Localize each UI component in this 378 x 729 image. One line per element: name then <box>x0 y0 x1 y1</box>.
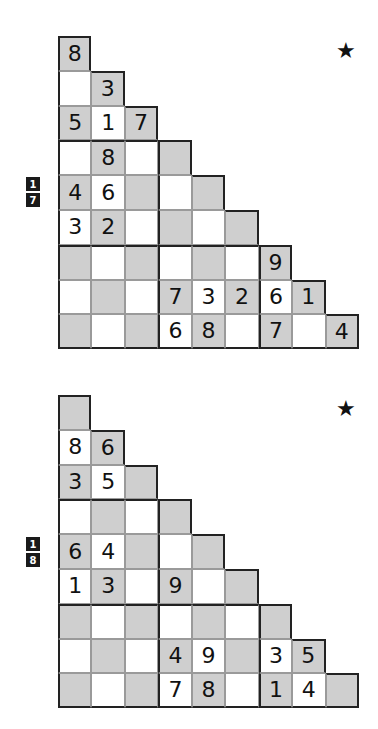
grid-cell[interactable]: 1 <box>292 280 325 315</box>
grid-cell[interactable] <box>225 245 258 280</box>
grid-cell[interactable] <box>225 604 258 639</box>
puzzle-label: 1 7 <box>26 177 40 209</box>
grid-cell[interactable]: 7 <box>125 106 158 141</box>
grid-cell[interactable] <box>91 499 124 534</box>
grid-cell[interactable] <box>58 639 91 674</box>
grid-cell[interactable] <box>125 465 158 500</box>
grid-cell[interactable] <box>158 175 191 210</box>
grid-cell[interactable] <box>326 673 359 708</box>
grid-cell[interactable] <box>225 673 258 708</box>
grid-cell[interactable]: 3 <box>58 465 91 500</box>
grid-cell[interactable] <box>91 280 124 315</box>
grid-cell[interactable]: 4 <box>58 175 91 210</box>
grid-cell[interactable]: 7 <box>259 314 292 349</box>
grid-cell[interactable] <box>259 604 292 639</box>
grid-cell[interactable]: 6 <box>58 534 91 569</box>
grid-cell[interactable] <box>125 639 158 674</box>
grid-cell[interactable]: 5 <box>292 639 325 674</box>
puzzle-label: 1 8 <box>26 537 40 569</box>
grid-cell[interactable] <box>158 245 191 280</box>
grid-cell[interactable] <box>225 569 258 604</box>
grid-cell[interactable] <box>91 314 124 349</box>
grid-cell[interactable] <box>125 604 158 639</box>
grid-cell[interactable]: 3 <box>259 639 292 674</box>
grid-cell[interactable] <box>58 140 91 175</box>
grid-cell[interactable] <box>158 604 191 639</box>
triangle-grid: 83517846329732616874 <box>58 36 359 349</box>
puzzle-1: 1 7 ★ 83517846329732616874 <box>0 0 378 360</box>
grid-cell[interactable] <box>91 639 124 674</box>
grid-cell[interactable]: 4 <box>292 673 325 708</box>
grid-cell[interactable]: 1 <box>259 673 292 708</box>
grid-cell[interactable] <box>158 210 191 245</box>
label-bottom: 8 <box>26 553 40 567</box>
grid-cell[interactable]: 6 <box>158 314 191 349</box>
grid-cell[interactable] <box>225 639 258 674</box>
grid-cell[interactable] <box>91 245 124 280</box>
grid-cell[interactable]: 8 <box>192 673 225 708</box>
grid-cell[interactable] <box>58 395 91 430</box>
grid-cell[interactable]: 3 <box>192 280 225 315</box>
grid-cell[interactable]: 8 <box>58 36 91 71</box>
grid-cell[interactable]: 8 <box>91 140 124 175</box>
grid-cell[interactable] <box>125 534 158 569</box>
grid-cell[interactable] <box>58 71 91 106</box>
grid-cell[interactable] <box>58 499 91 534</box>
grid-cell[interactable]: 2 <box>225 280 258 315</box>
grid-cell[interactable] <box>192 604 225 639</box>
grid-cell[interactable] <box>125 140 158 175</box>
grid-cell[interactable] <box>192 245 225 280</box>
grid-cell[interactable] <box>91 673 124 708</box>
grid-cell[interactable]: 5 <box>58 106 91 141</box>
grid-cell[interactable]: 2 <box>91 210 124 245</box>
grid-cell[interactable]: 5 <box>91 465 124 500</box>
grid-cell[interactable] <box>125 175 158 210</box>
grid-cell[interactable] <box>58 673 91 708</box>
grid-cell[interactable]: 6 <box>259 280 292 315</box>
grid-cell[interactable] <box>225 210 258 245</box>
grid-cell[interactable] <box>292 314 325 349</box>
grid-cell[interactable]: 9 <box>192 639 225 674</box>
grid-cell[interactable] <box>58 280 91 315</box>
grid-cell[interactable] <box>58 245 91 280</box>
grid-cell[interactable] <box>192 534 225 569</box>
grid-cell[interactable] <box>225 314 258 349</box>
grid-cell[interactable] <box>125 499 158 534</box>
grid-cell[interactable]: 4 <box>158 639 191 674</box>
grid-cell[interactable]: 7 <box>158 280 191 315</box>
grid-cell[interactable]: 4 <box>91 534 124 569</box>
grid-cell[interactable] <box>158 140 191 175</box>
grid-cell[interactable]: 3 <box>91 569 124 604</box>
grid-cell[interactable]: 4 <box>326 314 359 349</box>
grid-cell[interactable] <box>158 534 191 569</box>
grid-cell[interactable] <box>125 569 158 604</box>
grid-cell[interactable]: 9 <box>158 569 191 604</box>
grid-cell[interactable]: 7 <box>158 673 191 708</box>
grid-cell[interactable] <box>91 604 124 639</box>
grid-cell[interactable] <box>125 245 158 280</box>
grid-cell[interactable]: 3 <box>58 210 91 245</box>
grid-cell[interactable]: 3 <box>91 71 124 106</box>
grid-cell[interactable] <box>125 280 158 315</box>
grid-cell[interactable]: 1 <box>91 106 124 141</box>
grid-cell[interactable]: 6 <box>91 430 124 465</box>
grid-cell[interactable] <box>125 314 158 349</box>
grid-cell[interactable] <box>192 210 225 245</box>
label-top: 1 <box>26 537 40 551</box>
grid-cell[interactable] <box>58 314 91 349</box>
grid-cell[interactable] <box>125 210 158 245</box>
grid-cell[interactable]: 8 <box>192 314 225 349</box>
grid-cell[interactable]: 9 <box>259 245 292 280</box>
puzzle-2: 1 8 ★ 86356413949357814 <box>0 359 378 719</box>
label-bottom: 7 <box>26 193 40 207</box>
grid-cell[interactable] <box>192 175 225 210</box>
grid-cell[interactable] <box>158 499 191 534</box>
grid-cell[interactable] <box>58 604 91 639</box>
grid-cell[interactable] <box>125 673 158 708</box>
grid-cell[interactable]: 6 <box>91 175 124 210</box>
triangle-grid: 86356413949357814 <box>58 395 359 708</box>
grid-cell[interactable] <box>192 569 225 604</box>
grid-cell[interactable]: 8 <box>58 430 91 465</box>
grid-cell[interactable]: 1 <box>58 569 91 604</box>
label-top: 1 <box>26 177 40 191</box>
